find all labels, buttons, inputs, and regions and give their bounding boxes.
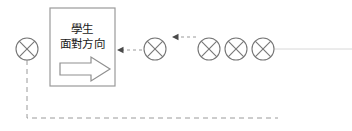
diagram-canvas: 學生 面對方向 (0, 0, 352, 131)
arrow-to-middle-seat (172, 34, 196, 40)
box-label-line1: 學生 (71, 22, 94, 36)
diagram-svg: 學生 面對方向 (0, 0, 352, 131)
seat-middle[interactable] (144, 38, 166, 60)
box-label-line2: 面對方向 (60, 37, 106, 51)
seat-right-2[interactable] (225, 38, 247, 60)
arrow-to-box (117, 47, 142, 53)
seat-left-isolated[interactable] (16, 38, 38, 60)
seat-right-1[interactable] (198, 38, 220, 60)
seat-right-3[interactable] (252, 38, 274, 60)
